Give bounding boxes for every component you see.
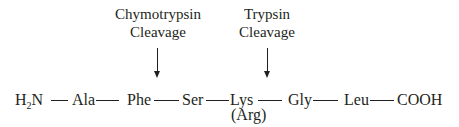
trypsin-arrowhead-icon — [264, 71, 270, 78]
bond-leu-cterm — [370, 100, 394, 101]
bond-ala-phe — [96, 100, 119, 101]
trypsin-arrow-shaft — [267, 48, 268, 72]
bond-lys-gly — [258, 100, 282, 101]
residue-alt-arg: (Arg) — [231, 106, 266, 124]
chymotrypsin-label-line1: Chymotrypsin — [108, 6, 208, 23]
chymotrypsin-label-line2: Cleavage — [108, 24, 208, 41]
residue-ala: Ala — [72, 91, 95, 109]
chymotrypsin-arrow-shaft — [157, 48, 158, 72]
bond-nterm-ala — [51, 100, 68, 101]
bond-ser-lys — [206, 100, 229, 101]
chymotrypsin-arrowhead-icon — [154, 71, 160, 78]
residue-ser: Ser — [182, 91, 203, 109]
bond-gly-leu — [313, 100, 338, 101]
chymotrypsin-label: Chymotrypsin Cleavage — [108, 6, 208, 41]
trypsin-label: Trypsin Cleavage — [227, 6, 307, 41]
n-terminus: H2N — [15, 91, 43, 111]
residue-leu: Leu — [344, 91, 369, 109]
trypsin-label-line2: Cleavage — [227, 24, 307, 41]
c-terminus: COOH — [397, 91, 442, 109]
trypsin-label-line1: Trypsin — [227, 6, 307, 23]
bond-phe-ser — [154, 100, 179, 101]
residue-gly: Gly — [288, 91, 312, 109]
residue-phe: Phe — [127, 91, 151, 109]
